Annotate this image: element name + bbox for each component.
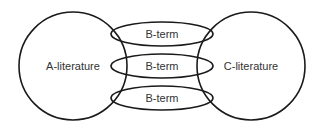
a-literature-label: A-literature (46, 60, 100, 72)
diagram-canvas: A-literature C-literature B-term B-term … (0, 0, 322, 128)
b-term-top: B-term (111, 22, 213, 46)
c-literature-label: C-literature (224, 60, 278, 72)
b-term-label-bottom: B-term (146, 92, 179, 104)
b-term-label-top: B-term (146, 28, 179, 40)
b-term-bottom: B-term (111, 86, 213, 110)
b-term-label-middle: B-term (146, 60, 179, 72)
